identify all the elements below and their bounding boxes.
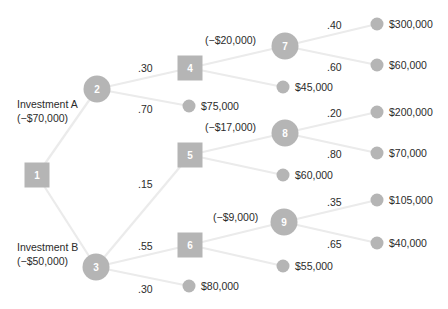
payoff-label: $70,000 (389, 147, 427, 159)
node-number: 8 (282, 128, 288, 139)
node-number: 2 (94, 84, 100, 95)
terminal-dot (371, 106, 384, 119)
terminal-t200: $200,000 (371, 106, 433, 119)
prob-2-75k: .70 (138, 103, 153, 115)
terminal-dot (371, 147, 384, 160)
node-number: 1 (34, 170, 40, 181)
investment-a-cost: (−$70,000) (17, 112, 68, 124)
payoff-label: $75,000 (201, 100, 239, 112)
payoff-label: $60,000 (389, 59, 427, 71)
prob-7-300k: .40 (327, 19, 342, 31)
payoff-label: $200,000 (389, 106, 433, 118)
terminal-dot (371, 59, 384, 72)
terminal-t45: $45,000 (277, 81, 334, 94)
payoff-label: $40,000 (389, 237, 427, 249)
terminal-dot (183, 100, 196, 113)
chance-node-7: 7 (272, 33, 299, 60)
edge-6-9 (190, 222, 284, 245)
investment-a-label: Investment A (17, 98, 78, 110)
terminal-dot (371, 237, 384, 250)
prob-9-105k: .35 (327, 196, 342, 208)
node-number: 6 (187, 240, 193, 251)
terminal-t105: $105,000 (371, 194, 433, 207)
edge-1-3 (37, 175, 96, 267)
chance-node-8: 8 (272, 120, 299, 147)
prob-8-200k: .20 (327, 107, 342, 119)
edge-5-t60b (190, 155, 283, 175)
node-number: 4 (187, 63, 193, 74)
node-number: 7 (282, 41, 288, 52)
prob-9-40k: .65 (327, 238, 342, 250)
investment-b-label: Investment B (17, 241, 78, 253)
chance-node-9: 9 (271, 209, 298, 236)
decision-node-4: 4 (178, 56, 203, 81)
prob-8-70k: .80 (327, 148, 342, 160)
payoff-label: $300,000 (389, 18, 433, 30)
prob-2-4: .30 (138, 62, 153, 74)
node-number: 3 (93, 262, 99, 273)
payoff-label: $55,000 (295, 260, 333, 272)
decision-node-6: 6 (178, 233, 203, 258)
prob-3-6: .55 (138, 240, 153, 252)
terminal-t80: $80,000 (183, 280, 240, 293)
edge-5-8 (190, 133, 285, 155)
edge-6-t55 (190, 245, 283, 266)
terminal-t70: $70,000 (371, 147, 428, 160)
terminal-dot (183, 280, 196, 293)
cost-label-node-5: (−$17,000) (205, 121, 256, 133)
edge-4-t45 (190, 68, 283, 87)
terminal-t60a: $60,000 (371, 59, 428, 72)
chance-node-3: 3 (83, 254, 110, 281)
terminal-t300: $300,000 (371, 18, 433, 31)
node-number: 5 (187, 150, 193, 161)
investment-b-cost: (−$50,000) (17, 255, 68, 267)
terminal-t60b: $60,000 (277, 169, 334, 182)
prob-3-80k: .30 (138, 283, 153, 295)
cost-label-node-4: (−$20,000) (205, 34, 256, 46)
terminal-dot (371, 18, 384, 31)
edge-4-7 (190, 46, 285, 68)
prob-7-60k: .60 (327, 61, 342, 73)
terminal-dot (277, 81, 290, 94)
decision-tree-diagram: 123456789 $75,000$45,000$300,000$60,000$… (0, 0, 448, 309)
decision-node-5: 5 (178, 143, 203, 168)
terminal-t55: $55,000 (277, 260, 334, 273)
cost-label-node-6: (−$9,000) (213, 211, 258, 223)
payoff-label: $60,000 (295, 169, 333, 181)
terminal-t75: $75,000 (183, 100, 240, 113)
terminal-dot (277, 260, 290, 273)
tree-edges (37, 24, 377, 286)
terminal-dot (371, 194, 384, 207)
prob-3-5: .15 (138, 178, 153, 190)
decision-node-1: 1 (25, 163, 50, 188)
payoff-label: $105,000 (389, 194, 433, 206)
node-number: 9 (281, 217, 287, 228)
terminal-dot (277, 169, 290, 182)
payoff-label: $80,000 (201, 280, 239, 292)
chance-node-2: 2 (84, 76, 111, 103)
payoff-label: $45,000 (295, 81, 333, 93)
terminal-t40: $40,000 (371, 237, 428, 250)
